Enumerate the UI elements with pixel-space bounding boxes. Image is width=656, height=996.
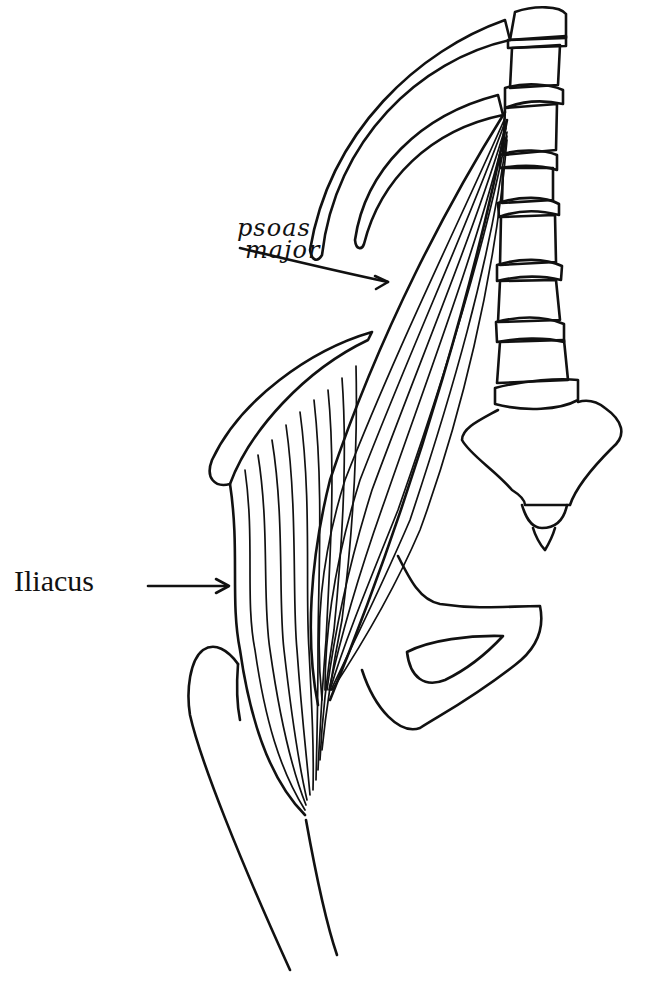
pubis-obturator-foramen — [362, 556, 541, 729]
iliacus-muscle — [230, 366, 356, 815]
psoas-major-label-line2: major — [245, 236, 320, 264]
psoas-major-muscle — [311, 112, 507, 705]
iliacus-label: Iliacus — [14, 564, 94, 598]
sacrum-coccyx — [462, 401, 621, 550]
anatomy-drawing — [0, 0, 656, 996]
lumbar-vertebral-column — [495, 7, 578, 409]
